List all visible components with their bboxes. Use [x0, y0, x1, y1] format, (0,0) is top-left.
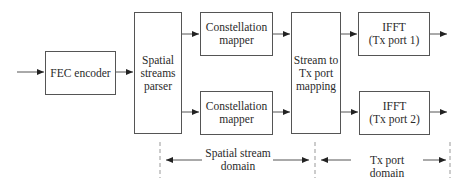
ifft-tx-port-2-block: IFFT (Tx port 2): [359, 91, 430, 135]
stream-to-tx-port-mapping-label: Stream to Tx port mapping: [294, 54, 338, 93]
fec-encoder-label: FEC encoder: [50, 67, 110, 80]
ifft-tx-port-2-label: IFFT (Tx port 2): [369, 100, 419, 126]
constellation-mapper-2-block: Constellation mapper: [200, 91, 273, 135]
ifft-tx-port-1-block: IFFT (Tx port 1): [358, 12, 430, 56]
constellation-mapper-2-label: Constellation mapper: [206, 100, 267, 126]
constellation-mapper-1-label: Constellation mapper: [206, 21, 267, 47]
fec-encoder-block: FEC encoder: [45, 51, 116, 95]
constellation-mapper-1-block: Constellation mapper: [200, 12, 273, 56]
tx-port-domain-label: Tx port domain: [352, 154, 422, 180]
spatial-streams-parser-block: Spatial streams parser: [134, 12, 182, 134]
spatial-stream-domain-label: Spatial stream domain: [203, 147, 273, 173]
ifft-tx-port-1-label: IFFT (Tx port 1): [369, 21, 419, 47]
spatial-streams-parser-label: Spatial streams parser: [140, 54, 175, 93]
stream-to-tx-port-mapping-block: Stream to Tx port mapping: [291, 12, 341, 134]
